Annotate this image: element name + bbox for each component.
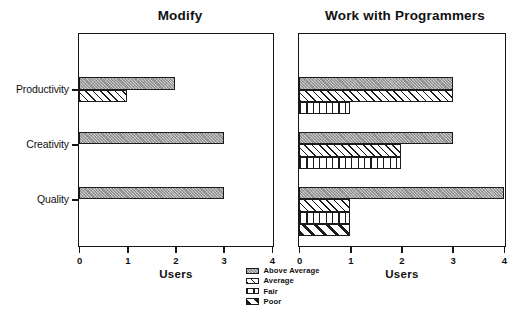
legend-item: Average bbox=[246, 276, 320, 286]
bar bbox=[299, 102, 350, 114]
bar bbox=[79, 187, 224, 199]
bar bbox=[299, 144, 401, 156]
legend-item-label: Fair bbox=[264, 287, 278, 296]
y-axis-category-label: Productivity bbox=[0, 83, 69, 95]
bar bbox=[79, 132, 224, 144]
x-axis-tick-label: 4 bbox=[261, 255, 283, 266]
bar bbox=[299, 199, 350, 211]
x-axis-tick-label: 3 bbox=[442, 255, 464, 266]
bar bbox=[299, 187, 504, 199]
y-axis-tick bbox=[72, 199, 78, 201]
bar bbox=[79, 77, 175, 89]
bar bbox=[299, 77, 453, 89]
plot-area-modify bbox=[78, 33, 274, 247]
plot-area-work-with-programmers bbox=[298, 33, 506, 247]
x-axis-tick bbox=[299, 247, 301, 253]
x-axis-tick bbox=[272, 247, 274, 253]
legend-item-label: Average bbox=[264, 276, 294, 285]
legend-item: Poor bbox=[246, 297, 320, 307]
legend-item: Above Average bbox=[246, 266, 320, 276]
x-axis-tick-label: 2 bbox=[165, 255, 187, 266]
x-axis-tick bbox=[127, 247, 129, 253]
x-axis-label-modify: Users bbox=[78, 268, 274, 280]
x-axis-tick-label: 1 bbox=[117, 255, 139, 266]
bar bbox=[299, 90, 453, 102]
x-axis-tick-label: 1 bbox=[340, 255, 362, 266]
x-axis-tick-label: 0 bbox=[289, 255, 311, 266]
chart-title-work-with-programmers: Work with Programmers bbox=[296, 8, 514, 23]
x-axis-tick bbox=[452, 247, 454, 253]
figure-container: Modify Users Work with Programmers Users… bbox=[0, 0, 520, 321]
bar bbox=[299, 212, 350, 224]
x-axis-tick bbox=[79, 247, 81, 253]
x-axis-tick bbox=[175, 247, 177, 253]
legend-item-label: Above Average bbox=[264, 266, 320, 275]
legend-swatch-icon bbox=[246, 278, 259, 285]
x-axis-tick bbox=[401, 247, 403, 253]
x-axis-tick-label: 4 bbox=[493, 255, 515, 266]
chart-legend: Above AverageAverageFairPoor bbox=[246, 266, 320, 307]
bars-layer-work-with-programmers bbox=[299, 34, 505, 246]
chart-title-modify: Modify bbox=[80, 8, 280, 23]
legend-swatch-icon bbox=[246, 288, 259, 295]
legend-swatch-icon bbox=[246, 268, 259, 275]
x-axis-tick bbox=[504, 247, 506, 253]
y-axis-category-label: Quality bbox=[0, 193, 69, 205]
x-axis-label-work-with-programmers: Users bbox=[298, 268, 506, 280]
bar bbox=[299, 157, 401, 169]
y-axis-tick bbox=[72, 89, 78, 91]
bar bbox=[299, 224, 350, 236]
x-axis-tick-label: 0 bbox=[69, 255, 91, 266]
bar bbox=[79, 90, 127, 102]
x-axis-tick bbox=[223, 247, 225, 253]
x-axis-tick-label: 2 bbox=[391, 255, 413, 266]
x-axis-tick-label: 3 bbox=[213, 255, 235, 266]
legend-item-label: Poor bbox=[264, 297, 282, 306]
x-axis-tick bbox=[350, 247, 352, 253]
bars-layer-modify bbox=[79, 34, 273, 246]
legend-item: Fair bbox=[246, 286, 320, 296]
legend-swatch-icon bbox=[246, 298, 259, 305]
y-axis-tick bbox=[72, 144, 78, 146]
y-axis-category-label: Creativity bbox=[0, 138, 69, 150]
bar bbox=[299, 132, 453, 144]
